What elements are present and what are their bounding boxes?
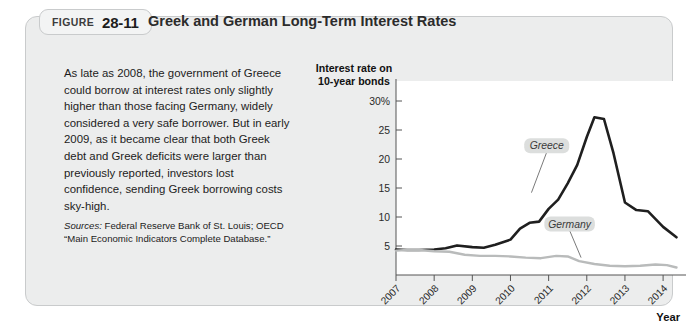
figure-title: Greek and German Long-Term Interest Rate… (148, 13, 456, 29)
x-tick-label: 2014 (646, 282, 670, 306)
x-tick-label: 2011 (532, 282, 556, 306)
y-tick-label: 15 (378, 183, 390, 194)
caption-body: As late as 2008, the government of Greec… (64, 65, 292, 214)
plot-background (396, 81, 686, 275)
x-axis-title: Year (656, 311, 680, 323)
figure-number-label: 28-11 (102, 14, 139, 31)
y-tick-label: 25 (378, 125, 390, 136)
y-tick-label: 20 (378, 154, 390, 165)
chart-container: Interest rate on 10-year bonds 510152025… (304, 57, 692, 323)
callout-label-germany: Germany (548, 219, 592, 230)
line-chart-svg: 51015202530%2007200820092010201120122013… (304, 57, 692, 323)
x-tick-label: 2012 (569, 282, 593, 306)
figure-card: Interest rate on 10-year bonds 510152025… (25, 16, 673, 306)
caption-sources: Sources: Federal Reserve Bank of St. Lou… (64, 220, 292, 245)
y-tick-label: 5 (384, 241, 390, 252)
figure-word-label: FIGURE (52, 16, 94, 28)
figure-number-tab: FIGURE 28-11 (39, 9, 152, 35)
x-tick-label: 2008 (417, 282, 441, 306)
x-tick-label: 2013 (608, 282, 632, 306)
x-tick-label: 2010 (493, 282, 517, 306)
x-tick-label: 2007 (379, 282, 403, 306)
x-tick-label: 2009 (455, 282, 479, 306)
caption-block: As late as 2008, the government of Greec… (64, 65, 292, 246)
y-tick-label: 30% (369, 96, 390, 107)
sources-lead: Sources: (64, 220, 102, 231)
callout-label-greece: Greece (530, 140, 564, 151)
y-tick-label: 10 (378, 212, 390, 223)
